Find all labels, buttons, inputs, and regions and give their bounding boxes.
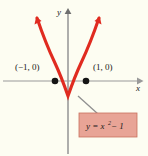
x-axis-label: x [135,83,140,93]
point-label-left: (−1, 0) [15,62,40,72]
parabola-figure: (−1, 0) (1, 0) y x y = x 2 − 1 [0,0,148,156]
equation-label-tail: − 1 [111,121,124,131]
callout-pointer-line [78,96,98,114]
point-marker-left [52,78,59,85]
equation-label-main: y = x [85,121,105,131]
y-axis-arrow-icon [65,8,72,14]
point-label-right: (1, 0) [93,62,113,72]
y-axis-label: y [56,7,61,17]
point-marker-right [83,78,90,85]
